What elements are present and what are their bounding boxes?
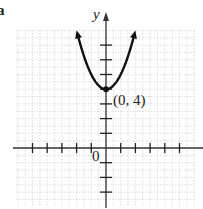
axes	[13, 12, 203, 208]
origin-label: 0	[92, 148, 100, 165]
parabola-graph	[0, 0, 203, 209]
y-axis-label: y	[93, 6, 100, 23]
vertex-label: (0, 4)	[113, 92, 146, 109]
panel-label: a	[0, 2, 5, 19]
vertex-point	[103, 86, 109, 92]
